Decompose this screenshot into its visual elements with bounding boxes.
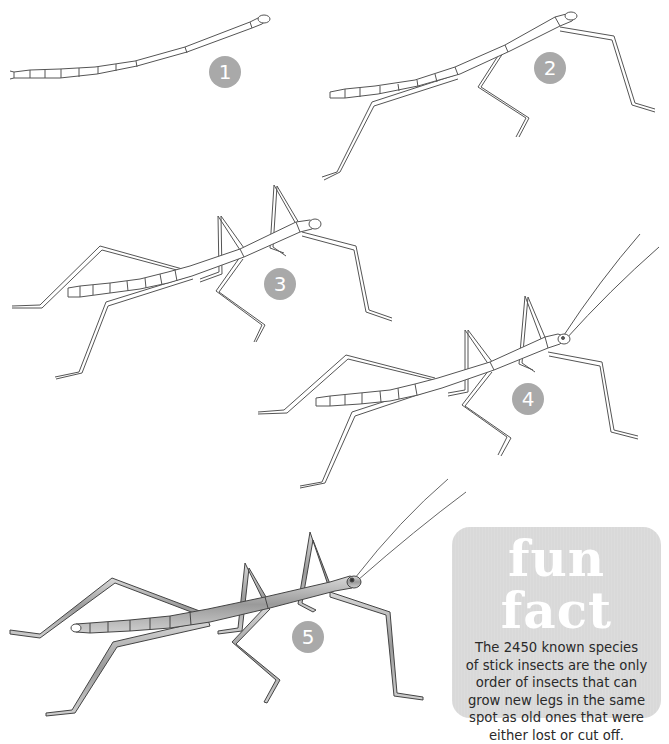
fun-fact-line: order of insects that can <box>458 674 655 692</box>
stage-badge-2: 2 <box>534 52 566 84</box>
fun-fact-line: The 2450 known species <box>458 639 655 657</box>
insect-stage-3 <box>12 185 392 379</box>
stage-badge-4: 4 <box>512 383 544 415</box>
stage-badge-5: 5 <box>292 621 324 653</box>
insect-stage-4 <box>258 234 659 488</box>
fun-fact-title: fun fact <box>458 533 655 637</box>
fun-fact-line: spot as old ones that were <box>458 709 655 727</box>
fun-fact-text: The 2450 known species of stick insects … <box>458 639 655 744</box>
insect-stage-2 <box>322 12 655 180</box>
fun-fact-box: fun fact The 2450 known species of stick… <box>452 527 661 718</box>
stage-badge-1: 1 <box>209 56 241 88</box>
stage-badge-3: 3 <box>264 268 296 300</box>
fun-fact-line: either lost or cut off. <box>458 727 655 744</box>
fun-fact-line: of stick insects are the only <box>458 657 655 675</box>
fun-fact-line: grow new legs in the same <box>458 692 655 710</box>
insect-stage-5 <box>10 479 466 716</box>
